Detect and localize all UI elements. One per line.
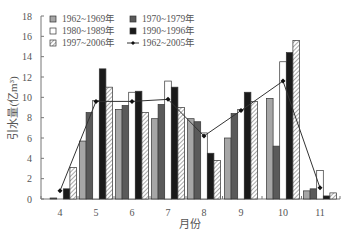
bar [86, 113, 93, 199]
bars [50, 40, 336, 199]
y-tick-label: 12 [22, 72, 32, 83]
chart: 0246810121416184567891011 1962~1969年1970… [0, 0, 347, 237]
y-tick-label: 10 [22, 92, 32, 103]
bar [330, 193, 337, 199]
bar [188, 119, 195, 199]
x-tick-label: 11 [315, 207, 325, 218]
x-tick-label: 6 [130, 207, 135, 218]
y-tick-label: 6 [27, 133, 32, 144]
bar [142, 113, 149, 199]
bar [317, 171, 324, 199]
bar [238, 110, 245, 199]
bar [323, 196, 330, 199]
x-axis-label: 月份 [179, 218, 201, 230]
legend-swatch-icon [50, 28, 56, 34]
bar [63, 189, 70, 199]
bar [267, 98, 274, 199]
bar [304, 191, 311, 199]
x-tick-label: 7 [166, 207, 171, 218]
bar [99, 69, 106, 199]
y-tick-label: 16 [22, 31, 32, 42]
bar [122, 105, 129, 199]
x-tick-label: 5 [94, 207, 99, 218]
bar [201, 133, 208, 199]
bar [152, 119, 159, 199]
legend-label: 1980~1989年 [62, 25, 115, 36]
bar [286, 53, 293, 199]
legend-label: 1962~1969年 [62, 13, 115, 24]
legend-swatch-icon [130, 16, 136, 22]
bar [214, 160, 221, 199]
legend-label: 1990~1996年 [142, 25, 195, 36]
bar [106, 87, 113, 199]
y-tick-label: 8 [27, 112, 32, 123]
legend-marker-icon [131, 41, 135, 45]
bar [178, 108, 185, 200]
bar [50, 198, 57, 199]
x-tick-label: 9 [239, 207, 244, 218]
bar [116, 110, 123, 199]
legend: 1962~1969年1970~1979年1980~1989年1990~1996年… [50, 13, 195, 48]
bar [194, 122, 201, 199]
y-tick-label: 4 [27, 153, 32, 164]
y-tick-label: 2 [27, 173, 32, 184]
legend-label: 1997~2006年 [62, 37, 115, 48]
bar [273, 146, 280, 199]
bar [158, 104, 165, 199]
bar [135, 91, 142, 199]
x-tick-label: 10 [278, 207, 288, 218]
line-marker-icon [58, 188, 63, 193]
bar [244, 92, 251, 199]
bar [231, 114, 238, 199]
bar [70, 167, 77, 199]
legend-label: 1962~2005年 [142, 37, 195, 48]
y-tick-label: 0 [27, 194, 32, 205]
x-tick-label: 4 [58, 207, 63, 218]
bar [251, 101, 258, 199]
x-tick-label: 8 [202, 207, 207, 218]
legend-label: 1970~1979年 [142, 13, 195, 24]
y-tick-label: 14 [22, 51, 32, 62]
legend-swatch-icon [50, 40, 56, 46]
y-axis-label: 引水量(亿m³) [6, 76, 20, 140]
bar [207, 153, 214, 199]
bar [129, 92, 136, 199]
bar [93, 100, 100, 199]
bar [80, 141, 87, 199]
legend-swatch-icon [50, 16, 56, 22]
bar [225, 138, 232, 199]
y-tick-label: 18 [22, 11, 32, 22]
legend-swatch-icon [130, 28, 136, 34]
bar [310, 189, 317, 199]
